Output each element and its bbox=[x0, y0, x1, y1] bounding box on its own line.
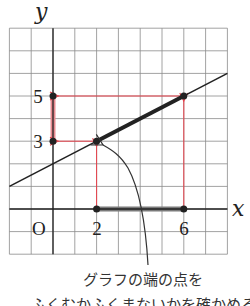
x-axis-label: x bbox=[232, 196, 245, 221]
origin-label: O bbox=[32, 218, 46, 239]
y-axis-dot bbox=[50, 93, 57, 100]
x-axis-dot bbox=[180, 206, 187, 213]
pointer-arrow bbox=[103, 145, 148, 265]
endpoint-dot bbox=[180, 93, 187, 100]
caption-line-1: グラフの端の点を bbox=[18, 268, 250, 289]
x-axis-dot bbox=[93, 206, 100, 213]
x-tick-label: 6 bbox=[179, 218, 189, 239]
guide-arrows bbox=[58, 96, 184, 209]
y-axis-dot bbox=[50, 138, 57, 145]
y-axis-label: y bbox=[34, 0, 48, 24]
y-tick-label: 3 bbox=[33, 131, 43, 152]
graph-figure: y x O 2 6 3 5 bbox=[0, 0, 250, 306]
x-tick-label: 2 bbox=[92, 218, 102, 239]
endpoint-dot bbox=[93, 138, 100, 145]
y-tick-label: 5 bbox=[33, 86, 43, 107]
caption-line-2: ふくむかふくまないかを確かめる bbox=[18, 293, 250, 306]
